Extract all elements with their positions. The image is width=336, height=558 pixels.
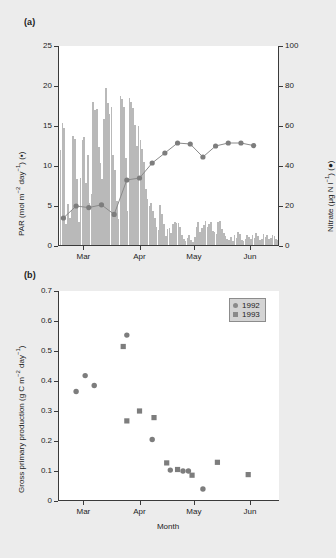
nitrate-point: [86, 205, 91, 210]
gpp-point-1993: [246, 472, 251, 477]
nitrate-point: [251, 143, 256, 148]
legend-entry-1993[interactable]: 1993: [233, 310, 260, 319]
gpp-point-1993: [151, 415, 156, 420]
nitrate-point: [137, 175, 142, 180]
legend-label: 1993: [242, 310, 260, 319]
nitrate-point: [226, 140, 231, 145]
gpp-point-1993: [215, 460, 220, 465]
nitrate-point: [175, 140, 180, 145]
nitrate-point: [213, 143, 218, 148]
nitrate-point: [188, 141, 193, 146]
gpp-point-1993: [137, 408, 142, 413]
nitrate-point: [99, 202, 104, 207]
square-marker-icon: [233, 312, 238, 317]
gpp-point-1993: [189, 473, 194, 478]
panel-a-y2-axis-title: Nitrate (μg N l−1) (●): [326, 161, 335, 232]
legend-entry-1992[interactable]: 1992: [233, 301, 260, 310]
gpp-point-1992: [149, 437, 154, 442]
panel-a-nitrate-line: [0, 0, 336, 265]
nitrate-polyline: [63, 143, 253, 218]
gpp-point-1992: [200, 486, 205, 491]
gpp-point-1992: [92, 383, 97, 388]
nitrate-point: [112, 212, 117, 217]
panel-a-y-axis-title: PAR (mol m−2 day−1) (▪): [17, 152, 26, 236]
nitrate-point: [150, 160, 155, 165]
circle-marker-icon: [233, 303, 238, 308]
panel-b-y-axis-title: Gross primary production (g C m−2 day−1): [17, 345, 26, 493]
gpp-point-1992: [168, 467, 173, 472]
gpp-point-1992: [73, 389, 78, 394]
gpp-point-1993: [175, 467, 180, 472]
nitrate-point: [124, 177, 129, 182]
panel-a: (a) 0510152025 020406080100 MarAprMayJun…: [0, 0, 336, 265]
legend-label: 1992: [242, 301, 260, 310]
panel-b-scatter-points: [0, 265, 336, 558]
panel-b-legend[interactable]: 19921993: [229, 298, 266, 322]
nitrate-point: [238, 140, 243, 145]
gpp-point-1993: [164, 460, 169, 465]
nitrate-point: [61, 215, 66, 220]
nitrate-point: [162, 150, 167, 155]
nitrate-point: [200, 154, 205, 159]
panel-b: (b) 00.10.20.30.40.50.60.7 MarAprMayJun …: [0, 265, 336, 558]
gpp-point-1992: [82, 373, 87, 378]
gpp-point-1992: [180, 468, 185, 473]
gpp-point-1992: [124, 332, 129, 337]
gpp-point-1993: [124, 418, 129, 423]
panel-b-x-axis-title: Month: [128, 522, 208, 531]
nitrate-point: [74, 203, 79, 208]
figure-root: (a) 0510152025 020406080100 MarAprMayJun…: [0, 0, 336, 558]
gpp-point-1993: [121, 344, 126, 349]
